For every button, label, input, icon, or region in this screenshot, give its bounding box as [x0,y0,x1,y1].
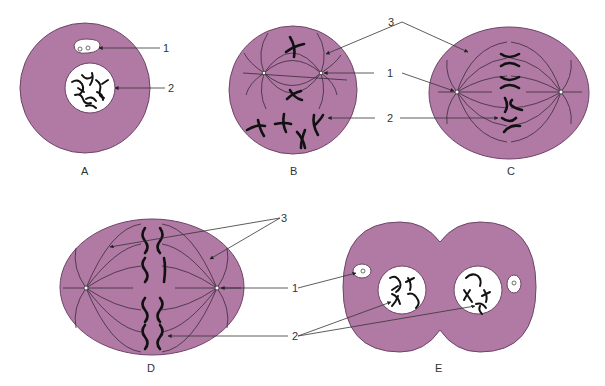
panel-c: 3 1 2 C [324,16,589,177]
panel-e: E [298,222,536,374]
label-2: 2 [292,330,298,342]
centriole [455,90,459,94]
cell-c [429,27,589,159]
label-2: 2 [387,112,393,124]
panel-a: 1 2 A [20,23,174,177]
caption-b: B [290,165,297,177]
centrosome-e-left [353,264,371,278]
caption-e: E [435,362,442,374]
caption-d: D [147,362,155,374]
mitosis-diagram: 1 2 A [0,0,605,386]
centriole [262,71,266,75]
label-1: 1 [292,282,298,294]
centriole [215,286,219,290]
label-3: 3 [281,212,287,224]
nucleus-e-left [378,266,426,314]
caption-a: A [81,165,89,177]
label-2: 2 [168,82,174,94]
centrosome-e-right [507,275,521,293]
centriole [559,90,563,94]
centriole [84,286,88,290]
label-1: 1 [387,67,393,79]
centriole [319,71,323,75]
panel-d: 3 1 2 D [60,212,298,374]
caption-c: C [507,165,515,177]
nucleus-e-right [454,266,502,314]
label-3: 3 [388,16,394,28]
label-1: 1 [163,42,169,54]
